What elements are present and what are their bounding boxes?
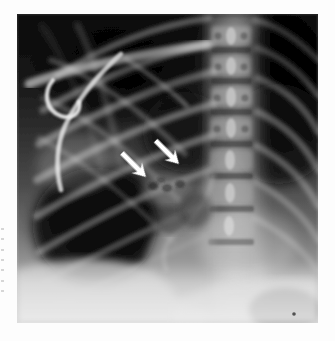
right-hilum-dark [149,206,189,234]
glyph-fragment [1,280,4,282]
figure-page [0,0,335,341]
glyph-fragment [1,249,4,251]
radiograph-body [17,14,318,323]
glyph-fragment [1,290,4,292]
glyph-fragment [1,238,4,240]
film-corner-dot [292,312,296,316]
page-edge-text-fragments [0,228,8,292]
glyph-fragment [1,269,4,271]
radiograph-canvas [17,14,318,323]
glyph-fragment [1,259,4,261]
chest-radiograph-image [17,14,318,323]
glyph-fragment [1,228,4,230]
